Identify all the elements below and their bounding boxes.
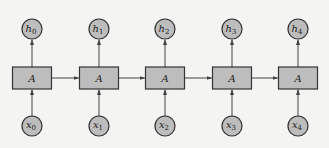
input-node-x3: x3: [222, 116, 242, 136]
output-node-h2: h2: [155, 19, 175, 39]
input-node-x4: x4: [288, 116, 308, 136]
input-node-x2: x2: [155, 116, 175, 136]
rnn-cell-1: A: [80, 67, 119, 89]
output-node-h3: h3: [222, 19, 242, 39]
cell-label: A: [27, 73, 35, 84]
rnn-cell-4: A: [279, 67, 318, 89]
rnn-cell-2: A: [146, 67, 185, 89]
output-node-h0: h0: [22, 19, 42, 39]
rnn-unrolled-diagram: Ah0x0Ah1x1Ah2x2Ah3x3Ah4x4: [0, 0, 329, 148]
cell-label: A: [293, 73, 301, 84]
rnn-cell-0: A: [13, 67, 52, 89]
rnn-cell-3: A: [213, 67, 252, 89]
output-node-h4: h4: [288, 19, 308, 39]
cell-label: A: [227, 73, 235, 84]
input-node-x1: x1: [89, 116, 109, 136]
input-node-x0: x0: [22, 116, 42, 136]
cell-label: A: [94, 73, 102, 84]
cell-label: A: [160, 73, 168, 84]
output-node-h1: h1: [89, 19, 109, 39]
